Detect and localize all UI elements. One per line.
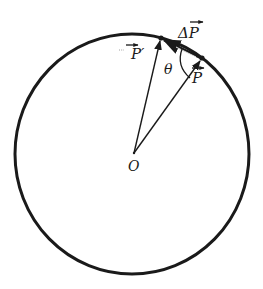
vector-delta-p: [164, 40, 201, 58]
momentum-diagram: P′ P ΔP θ O: [0, 0, 263, 289]
label-theta: θ: [164, 61, 173, 77]
label-p-text: P: [191, 69, 203, 87]
label-delta-p: ΔP: [177, 22, 203, 42]
label-origin: O: [128, 158, 140, 174]
point-p-prime: [158, 35, 163, 40]
point-origin: [133, 152, 135, 154]
label-delta-p-text: ΔP: [177, 24, 200, 42]
point-p: [199, 55, 204, 60]
label-p: P: [191, 68, 204, 87]
circular-path: [15, 34, 249, 274]
label-p-prime: P′: [119, 45, 145, 63]
label-p-prime-text: P′: [130, 45, 145, 63]
